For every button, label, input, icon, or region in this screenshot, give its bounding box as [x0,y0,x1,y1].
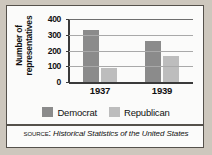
x-axis-tick-label: 1937 [90,85,110,96]
source-note: Source: Historical Statistics of the Uni… [7,128,205,138]
y-axis-title: Number of representatives [15,7,34,85]
legend-swatch-republican [109,107,120,117]
plot-area: Number of representatives 0100200300400 … [7,6,205,106]
legend-label-republican: Republican [124,107,170,118]
chart-legend: DemocratRepublican [7,103,205,121]
y-axis-tick-label: 400 [33,14,61,24]
source-divider [7,124,203,126]
gridline [69,35,193,36]
source-prefix: Source: [23,128,50,138]
y-axis-title-line2: representatives [23,16,33,76]
bar-democrat-1937 [83,30,99,82]
gridline [69,66,193,67]
x-axis-tick-label: 1939 [152,85,172,96]
y-axis-title-line1: Number of [14,25,24,66]
x-axis-tick-labels: 19371939 [69,85,193,99]
source-title: Historical Statistics of the United Stat… [53,129,188,138]
gridline [69,51,193,52]
y-axis-tick-mark [66,35,69,36]
gridline [69,19,193,20]
x-axis-baseline [69,82,193,84]
bar-democrat-1939 [145,41,161,82]
legend-swatch-democrat [42,107,53,117]
bar-republican-1937 [101,68,117,82]
chart-figure: Number of representatives 0100200300400 … [6,5,204,148]
legend-item-democrat: Democrat [42,107,97,118]
y-axis-tick-mark [66,19,69,20]
y-axis-tick-labels: 0100200300400 [33,19,61,82]
y-axis-tick-label: 300 [33,30,61,40]
y-axis-tick-mark [66,51,69,52]
chart-axes [69,19,193,82]
y-axis-tick-mark [66,66,69,67]
y-axis-tick-label: 100 [33,61,61,71]
legend-label-democrat: Democrat [57,107,97,118]
y-axis-tick-label: 200 [33,46,61,56]
y-axis-tick-label: 0 [33,77,61,87]
bar-republican-1939 [163,56,179,82]
y-axis-tick-mark [66,82,69,83]
legend-item-republican: Republican [109,107,170,118]
